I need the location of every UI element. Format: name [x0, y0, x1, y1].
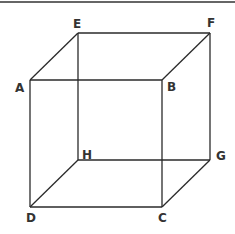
- vertex-label-g: G: [216, 149, 226, 163]
- cube-diagram: E F A B H G D C: [0, 0, 235, 234]
- cube-edges: [30, 33, 210, 207]
- vertex-label-b: B: [167, 80, 176, 94]
- vertex-label-h: H: [82, 148, 92, 162]
- edge-cg: [162, 160, 210, 207]
- vertex-label-d: D: [26, 211, 36, 225]
- edge-dh: [30, 160, 78, 207]
- edge-ae: [30, 33, 78, 80]
- vertex-label-c: C: [158, 211, 167, 225]
- edge-bf: [162, 33, 210, 80]
- vertex-label-f: F: [207, 16, 215, 30]
- vertex-label-e: E: [73, 17, 81, 31]
- vertex-label-a: A: [15, 81, 25, 95]
